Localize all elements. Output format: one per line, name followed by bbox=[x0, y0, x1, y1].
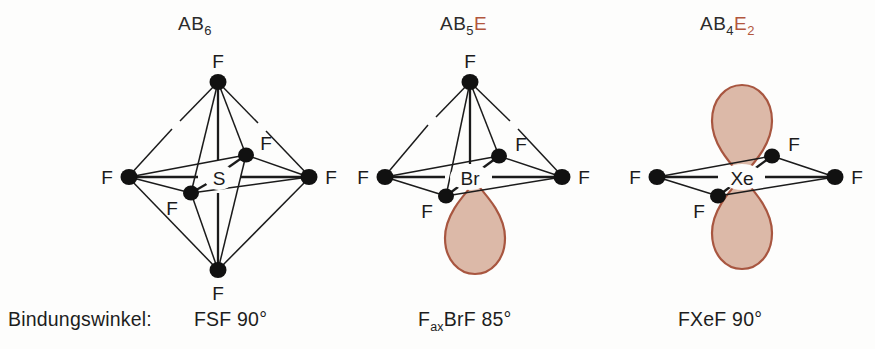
angle-value: 90° bbox=[237, 308, 267, 330]
molecule-xef4: F F F F Xe bbox=[629, 85, 863, 269]
angle-value: 90° bbox=[732, 308, 762, 330]
vsepr-figure: AB6 AB5E AB4E2 bbox=[0, 0, 875, 349]
atom-f-front bbox=[183, 186, 199, 201]
bond-angle-caption-prefix: Bindungswinkel: bbox=[8, 308, 152, 331]
label-center-atom-br: Br bbox=[461, 168, 481, 189]
label-f-apex: F bbox=[464, 51, 476, 72]
atom-f-left bbox=[377, 169, 394, 185]
angle-atoms-subscript: ax bbox=[430, 320, 444, 334]
atom-f-front bbox=[438, 189, 454, 204]
label-f-right: F bbox=[578, 167, 590, 188]
label-f-right: F bbox=[851, 167, 863, 188]
bond-angle-sf6: FSF 90° bbox=[194, 308, 267, 331]
atom-f-front bbox=[710, 189, 726, 204]
angle-atoms-pre: F bbox=[418, 308, 430, 330]
molecule-sf6: F F F F F F S bbox=[101, 51, 337, 304]
angle-atoms: FSF bbox=[194, 308, 231, 330]
molecule-drawings: F F F F F F S bbox=[0, 0, 875, 349]
angle-atoms-post: BrF bbox=[444, 308, 476, 330]
bond-angle-xef4: FXeF 90° bbox=[678, 308, 762, 331]
atom-f-back bbox=[238, 148, 254, 163]
atom-f-left bbox=[121, 169, 138, 185]
atom-f-apex bbox=[210, 74, 227, 90]
atom-f-back bbox=[764, 149, 780, 164]
atom-f-right bbox=[301, 169, 318, 185]
atom-f-right bbox=[827, 169, 844, 185]
molecule-brf5: F F F F F Br bbox=[357, 51, 590, 274]
label-f-apex: F bbox=[212, 51, 224, 72]
lone-pair-lobe-1 bbox=[445, 182, 505, 274]
label-f-front: F bbox=[421, 201, 433, 222]
label-f-left: F bbox=[357, 167, 369, 188]
atom-f-bottom bbox=[210, 262, 227, 278]
label-f-back: F bbox=[788, 134, 800, 155]
label-f-front: F bbox=[166, 198, 178, 219]
label-f-left: F bbox=[101, 167, 113, 188]
atom-f-back bbox=[491, 149, 507, 164]
brf5-outer-edges bbox=[385, 82, 562, 176]
atom-f-apex bbox=[462, 74, 479, 90]
label-f-right: F bbox=[325, 167, 337, 188]
angle-atoms: FXeF bbox=[678, 308, 726, 330]
atom-f-left bbox=[649, 169, 666, 185]
label-f-left: F bbox=[629, 167, 641, 188]
label-f-bottom: F bbox=[212, 283, 224, 304]
angle-value: 85° bbox=[481, 308, 511, 330]
label-center-atom-s: S bbox=[213, 168, 226, 189]
label-f-back: F bbox=[515, 134, 527, 155]
label-center-atom-xe: Xe bbox=[730, 168, 753, 189]
label-f-back: F bbox=[260, 133, 272, 154]
bond-angle-brf5: FaxBrF 85° bbox=[418, 308, 511, 334]
atom-f-right bbox=[554, 169, 571, 185]
label-f-front: F bbox=[693, 201, 705, 222]
